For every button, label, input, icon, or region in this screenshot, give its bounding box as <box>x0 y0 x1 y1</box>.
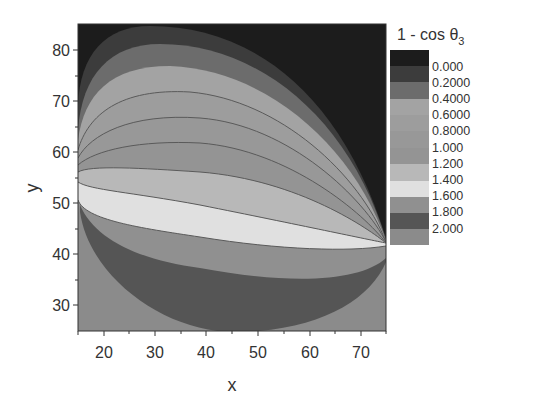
y-axis-label: y <box>22 184 42 193</box>
colorbar-label: 1.400 <box>432 173 463 187</box>
x-tick-label: 40 <box>197 344 215 361</box>
colorbar-label: 0.2000 <box>432 76 470 90</box>
colorbar-labels: 0.000 0.2000 0.4000 0.6000 0.8000 1.000 … <box>432 60 470 236</box>
colorbar-label: 0.4000 <box>432 92 470 106</box>
colorbar-label: 0.000 <box>432 60 463 74</box>
y-tick-label: 50 <box>52 195 70 212</box>
y-tick-label: 30 <box>52 297 70 314</box>
colorbar-label: 0.6000 <box>432 108 470 122</box>
colorbar-label: 1.600 <box>432 189 463 203</box>
y-tick-label: 40 <box>52 246 70 263</box>
plot-area <box>78 24 386 332</box>
x-tick-label: 50 <box>249 344 267 361</box>
contour-chart: 20 30 40 50 60 70 x 30 40 50 60 70 80 y <box>0 0 537 410</box>
y-tick-labels: 30 40 50 60 70 80 <box>52 42 70 314</box>
y-tick-label: 70 <box>52 93 70 110</box>
colorbar-label: 1.200 <box>432 157 463 171</box>
x-tick-labels: 20 30 40 50 60 70 <box>95 344 370 361</box>
y-tick-label: 60 <box>52 144 70 161</box>
colorbar-label: 2.000 <box>432 222 463 236</box>
colorbar-label: 1.800 <box>432 205 463 219</box>
y-axis <box>73 50 78 305</box>
x-axis-label: x <box>228 375 237 395</box>
x-tick-label: 30 <box>146 344 164 361</box>
colorbar-label: 1.000 <box>432 141 463 155</box>
x-tick-label: 70 <box>352 344 370 361</box>
colorbar <box>390 50 429 245</box>
y-tick-label: 80 <box>52 42 70 59</box>
x-axis <box>78 331 386 336</box>
colorbar-title: 1 - cos θ3 <box>397 26 464 47</box>
x-tick-label: 20 <box>95 344 113 361</box>
x-tick-label: 60 <box>301 344 319 361</box>
colorbar-label: 0.8000 <box>432 124 470 138</box>
